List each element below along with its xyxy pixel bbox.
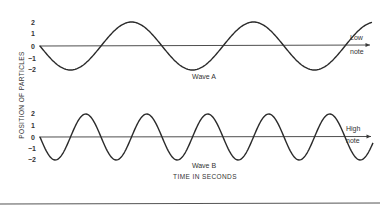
high-note-label-line2: note bbox=[346, 137, 360, 144]
tick-label: 1 bbox=[31, 122, 35, 129]
bottom-divider bbox=[0, 203, 380, 204]
x-axis-label: TIME IN SECONDS bbox=[173, 173, 237, 180]
tick-label: 0 bbox=[31, 134, 35, 141]
tick-label: 2 bbox=[31, 19, 35, 26]
low-note-label-line1: Low bbox=[350, 34, 364, 41]
wave-b-caption: Wave B bbox=[192, 162, 217, 169]
wave-a-caption: Wave A bbox=[192, 73, 216, 80]
tick-label: −1 bbox=[28, 55, 36, 62]
low-note-label-line2: note bbox=[350, 48, 364, 55]
tick-label: −1 bbox=[28, 145, 36, 152]
tick-label: −2 bbox=[28, 156, 36, 163]
wave-b-panel: 2 1 0 −1 −2 Wave B High note bbox=[28, 110, 373, 170]
tick-label: 2 bbox=[31, 110, 35, 117]
wave-a-y-ticks: 2 1 0 −1 −2 bbox=[28, 19, 36, 73]
high-note-label-line1: High bbox=[346, 125, 361, 133]
tick-label: 0 bbox=[31, 43, 35, 50]
wave-b-y-ticks: 2 1 0 −1 −2 bbox=[28, 110, 36, 163]
wave-a-panel: 2 1 0 −1 −2 Wave A Low note bbox=[28, 19, 372, 81]
tick-label: −2 bbox=[28, 66, 36, 73]
tick-label: 1 bbox=[31, 30, 35, 37]
y-axis-label: POSITION OF PARTICLES bbox=[18, 51, 25, 139]
wave-a-time-axis bbox=[39, 45, 370, 46]
wave-b-time-axis bbox=[39, 137, 371, 138]
wave-diagram: POSITION OF PARTICLES 2 1 0 −1 −2 Wave A… bbox=[0, 0, 390, 206]
